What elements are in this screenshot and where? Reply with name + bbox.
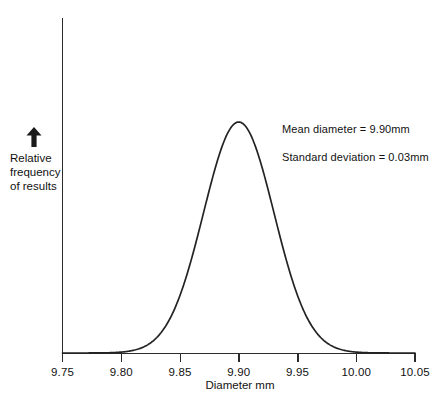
x-tick-label: 10.00 [342, 366, 371, 378]
x-tick-label: 9.95 [286, 366, 309, 378]
y-axis-title-block: Relative frequency of results [8, 126, 60, 193]
annotation-standard-deviation: Standard deviation = 0.03mm [282, 151, 429, 163]
y-axis-title-line-2: frequency [8, 165, 60, 179]
x-axis-tick-marks [63, 353, 416, 362]
x-tick-label: 9.90 [227, 366, 250, 378]
chart-canvas [0, 0, 438, 409]
y-axis-title-line-1: Relative [8, 151, 60, 165]
x-tick-label: 9.80 [110, 366, 133, 378]
x-tick-label: 9.85 [169, 366, 192, 378]
x-tick-label: 10.05 [400, 366, 429, 378]
up-arrow-icon [25, 126, 43, 148]
y-axis-title-line-3: of results [8, 179, 60, 193]
normal-distribution-chart: 9.759.809.859.909.9510.0010.05 Diameter … [0, 0, 438, 409]
x-tick-label: 9.75 [51, 366, 74, 378]
annotation-mean-diameter: Mean diameter = 9.90mm [282, 123, 410, 135]
x-axis-title: Diameter mm [205, 379, 274, 391]
